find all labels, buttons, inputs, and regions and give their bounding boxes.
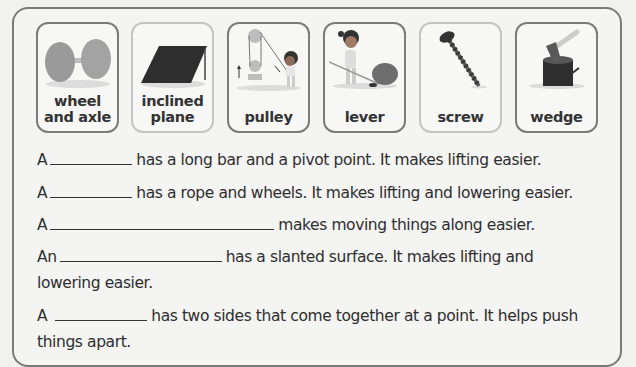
card-label: wheel — [38, 93, 117, 109]
sentence-3: Amakes moving things along easier. — [37, 216, 535, 234]
answer-blank[interactable] — [50, 197, 132, 198]
sentence-text: has a long bar and a pivot point. It mak… — [136, 151, 541, 169]
lever-icon — [329, 28, 400, 92]
card-wedge: wedge — [515, 22, 598, 133]
card-screw: screw — [419, 22, 502, 133]
card-label: wedge — [517, 109, 596, 125]
card-lever: lever — [323, 22, 406, 133]
sentence-text: has two sides that come together at a po… — [151, 307, 578, 325]
card-label: lever — [325, 109, 404, 125]
sentence-5-continuation: things apart. — [37, 333, 131, 351]
sentence-1: Ahas a long bar and a pivot point. It ma… — [37, 151, 541, 169]
card-inclined-plane: inclined plane — [131, 22, 214, 133]
answer-blank[interactable] — [55, 320, 147, 321]
answer-blank[interactable] — [60, 261, 222, 262]
card-wheel-and-axle: wheel and axle — [36, 22, 119, 133]
sentence-text: has a rope and wheels. It makes lifting … — [136, 184, 573, 202]
answer-blank[interactable] — [50, 229, 274, 230]
sentence-text: makes moving things along easier. — [278, 216, 535, 234]
sentence-prefix: A — [37, 307, 47, 325]
answer-blank[interactable] — [50, 164, 132, 165]
inclined-plane-icon — [137, 28, 208, 92]
card-label: inclined — [133, 93, 212, 109]
card-label: pulley — [229, 109, 308, 125]
sentence-4: Anhas a slanted surface. It makes liftin… — [37, 248, 533, 266]
wheel-and-axle-icon — [42, 28, 113, 92]
pulley-icon — [233, 28, 304, 92]
sentence-prefix: An — [37, 248, 57, 266]
sentence-4-continuation: lowering easier. — [37, 274, 153, 292]
sentence-2: Ahas a rope and wheels. It makes lifting… — [37, 184, 573, 202]
sentence-prefix: A — [37, 151, 47, 169]
sentence-5: Ahas two sides that come together at a p… — [37, 307, 578, 325]
sentence-prefix: A — [37, 216, 47, 234]
card-pulley: pulley — [227, 22, 310, 133]
card-label: screw — [421, 109, 500, 125]
wedge-icon — [521, 28, 592, 92]
sentence-text: has a slanted surface. It makes lifting … — [226, 248, 534, 266]
card-label: plane — [133, 109, 212, 125]
screw-icon — [425, 28, 496, 92]
sentence-prefix: A — [37, 184, 47, 202]
card-label: and axle — [38, 109, 117, 125]
